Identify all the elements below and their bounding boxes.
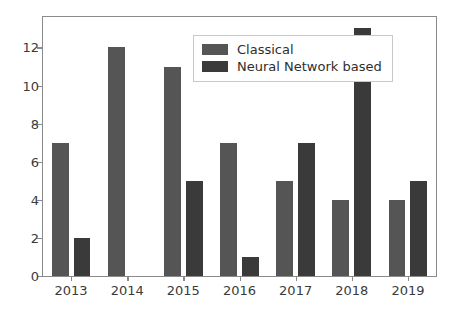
x-axis-tick-mark — [183, 276, 184, 281]
bar-2019-classical — [389, 200, 406, 276]
x-axis-tick-label: 2018 — [335, 284, 368, 297]
x-axis-tick-mark — [71, 276, 72, 281]
legend-item-classical: Classical — [202, 41, 382, 58]
bar-group — [43, 17, 99, 276]
legend-label: Classical — [237, 43, 294, 56]
y-axis-tick-label: 2 — [31, 231, 39, 244]
x-axis-tick-label: 2017 — [279, 284, 312, 297]
x-axis-tick-label: 2019 — [391, 284, 424, 297]
x-axis-tick-mark — [408, 276, 409, 281]
bar-2015-classical — [164, 67, 181, 276]
bar-2017-neural-network-based — [298, 143, 315, 276]
legend-swatch-icon — [202, 44, 228, 55]
bar-2017-classical — [276, 181, 293, 276]
plot-area: 024681012 2013201420152016201720182019 C… — [42, 16, 437, 277]
y-axis-tick-label: 10 — [22, 79, 39, 92]
x-axis-tick-label: 2016 — [223, 284, 256, 297]
bar-2018-classical — [332, 200, 349, 276]
bar-group — [99, 17, 155, 276]
x-axis-tick-mark — [127, 276, 128, 281]
bar-2016-classical — [220, 143, 237, 276]
x-axis-tick-label: 2015 — [167, 284, 200, 297]
bar-2013-neural-network-based — [74, 238, 91, 276]
x-axis-tick-label: 2013 — [55, 284, 88, 297]
bar-chart-figure: 024681012 2013201420152016201720182019 C… — [0, 0, 456, 314]
legend-label: Neural Network based — [237, 60, 382, 73]
y-axis-tick-label: 0 — [31, 270, 39, 283]
bar-2015-neural-network-based — [186, 181, 203, 276]
x-axis-tick-label: 2014 — [111, 284, 144, 297]
legend-swatch-icon — [202, 61, 228, 72]
bar-2013-classical — [52, 143, 69, 276]
x-axis-tick-mark — [240, 276, 241, 281]
y-axis-tick-label: 6 — [31, 155, 39, 168]
y-axis-tick-label: 8 — [31, 117, 39, 130]
legend-item-neural-network-based: Neural Network based — [202, 58, 382, 75]
x-axis-tick-mark — [352, 276, 353, 281]
bar-2019-neural-network-based — [410, 181, 427, 276]
x-axis-tick-mark — [296, 276, 297, 281]
y-axis-tick-label: 12 — [22, 41, 39, 54]
bar-2016-neural-network-based — [242, 257, 259, 276]
y-axis-tick-label: 4 — [31, 193, 39, 206]
bar-2014-classical — [108, 47, 125, 276]
chart-legend: ClassicalNeural Network based — [193, 35, 393, 82]
